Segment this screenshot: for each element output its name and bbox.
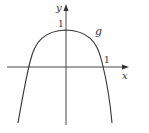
y-tick-label-1: 1 (58, 19, 64, 29)
x-axis-arrow-icon (122, 65, 129, 70)
y-axis-label: y (55, 2, 62, 13)
y-axis-arrow-icon (64, 4, 69, 11)
graph-of-g: y x 1 1 g (0, 0, 149, 133)
x-tick-label-1: 1 (104, 55, 110, 65)
x-axis (7, 65, 129, 70)
x-axis-label: x (122, 70, 128, 81)
y-axis (64, 4, 69, 125)
curve-label-g: g (95, 25, 102, 38)
curve-g (18, 30, 112, 123)
